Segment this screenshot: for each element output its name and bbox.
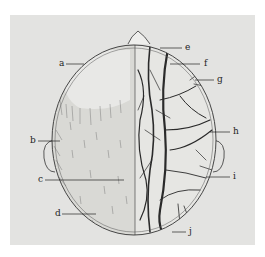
label-g: g bbox=[217, 75, 223, 84]
label-f: f bbox=[204, 59, 207, 68]
label-a: a bbox=[59, 59, 64, 68]
label-i: i bbox=[233, 172, 236, 181]
label-d: d bbox=[55, 209, 61, 218]
label-e: e bbox=[185, 43, 190, 52]
label-h: h bbox=[233, 127, 239, 136]
head-diagram bbox=[0, 0, 265, 257]
label-b: b bbox=[30, 136, 36, 145]
nose-outline bbox=[128, 31, 150, 44]
label-j: j bbox=[189, 227, 192, 236]
label-c: c bbox=[38, 175, 43, 184]
